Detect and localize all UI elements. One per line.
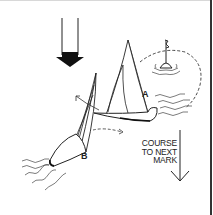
- rounding-path: [140, 50, 201, 108]
- course-line-3: MARK: [131, 156, 177, 165]
- wind-arrow-icon: [56, 18, 84, 67]
- boat-b-label: B: [81, 152, 88, 161]
- boat-a-icon: [94, 40, 192, 121]
- boat-a-label: A: [142, 90, 149, 99]
- sailing-diagram: [0, 0, 213, 215]
- buoy-mark-icon: [152, 40, 180, 75]
- diagram-frame: A B COURSE TO NEXT MARK: [0, 0, 213, 215]
- dashed-course-arrow-icon: [93, 129, 123, 134]
- boat-b-icon: [22, 73, 96, 190]
- course-to-next-mark-label: COURSE TO NEXT MARK: [131, 139, 177, 165]
